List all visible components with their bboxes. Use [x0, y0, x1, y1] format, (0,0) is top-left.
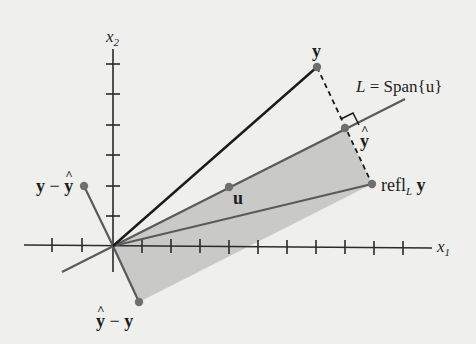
point-refl-y — [368, 180, 376, 188]
point-yhat-minus-y — [135, 298, 143, 306]
label-y: y — [312, 42, 321, 60]
point-u — [225, 183, 233, 191]
reflection-diagram: x2 x1 L = Span{u} y y u reflL y y − y y … — [0, 0, 476, 344]
label-yhat-minus-y: y − y — [96, 312, 133, 330]
point-y — [313, 63, 321, 71]
label-yhat: y — [360, 132, 369, 150]
label-refl-y: reflL y — [381, 176, 426, 197]
label-y-minus-yhat: y − y — [36, 177, 73, 195]
x1-axis-label: x1 — [437, 238, 450, 258]
point-y-minus-yhat — [80, 182, 88, 190]
x2-axis-label: x2 — [106, 28, 119, 48]
point-yhat — [341, 124, 349, 132]
line-L-label: L = Span{u} — [356, 78, 442, 95]
x2-axis — [106, 49, 120, 272]
label-u: u — [233, 189, 243, 207]
